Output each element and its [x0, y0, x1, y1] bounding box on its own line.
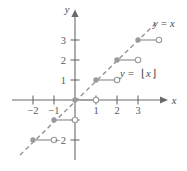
x-tick-label-2: 2	[114, 105, 119, 116]
y-tick-label-2: 2	[61, 55, 66, 66]
floor-step-segments	[33, 40, 159, 140]
closed-dot-origin	[72, 97, 77, 102]
open-dot-neg1	[72, 117, 77, 122]
floor-label-variable: x	[145, 68, 151, 79]
x-axis-arrowhead	[160, 96, 168, 103]
floor-function-label: y = ⌊ x ⌋	[119, 68, 156, 79]
x-tick-labels-group: −2 −1 1 2 3	[27, 105, 140, 116]
graph-figure: −2 −1 1 2 3 3 2 1 −2 x y y = x y = ⌊ x ⌋	[0, 0, 187, 171]
x-tick-label-3: 3	[135, 105, 140, 116]
open-dot-3	[156, 37, 161, 42]
open-dot-0	[93, 97, 98, 102]
x-tick-label-neg2: −2	[27, 105, 38, 116]
y-axis-arrowhead	[71, 10, 78, 18]
graph-canvas: −2 −1 1 2 3 3 2 1 −2 x y y = x y = ⌊ x ⌋	[0, 0, 187, 171]
closed-endpoints-group	[30, 37, 140, 142]
closed-dot-1	[93, 77, 98, 82]
open-dot-1	[114, 77, 119, 82]
x-axis-label: x	[171, 95, 177, 106]
identity-line-label: y = x	[152, 18, 175, 29]
y-tick-labels-group: 3 2 1 −2	[55, 35, 66, 146]
closed-dot-neg2	[30, 137, 35, 142]
closed-dot-3	[135, 37, 140, 42]
open-endpoints-group	[51, 37, 161, 142]
y-tick-label-1: 1	[61, 75, 66, 86]
x-tick-label-1: 1	[93, 105, 98, 116]
floor-label-open-bracket: ⌊	[141, 68, 145, 79]
y-tick-label-3: 3	[61, 35, 66, 46]
x-tick-label-neg1: −1	[48, 105, 59, 116]
floor-label-close-bracket: ⌋	[152, 68, 156, 79]
floor-label-prefix: y =	[119, 68, 134, 79]
y-tick-label-neg2: −2	[55, 135, 66, 146]
closed-dot-neg1	[51, 117, 56, 122]
closed-dot-2	[114, 57, 119, 62]
open-dot-2	[135, 57, 140, 62]
y-axis-label: y	[64, 4, 70, 15]
axes-group	[12, 10, 168, 161]
